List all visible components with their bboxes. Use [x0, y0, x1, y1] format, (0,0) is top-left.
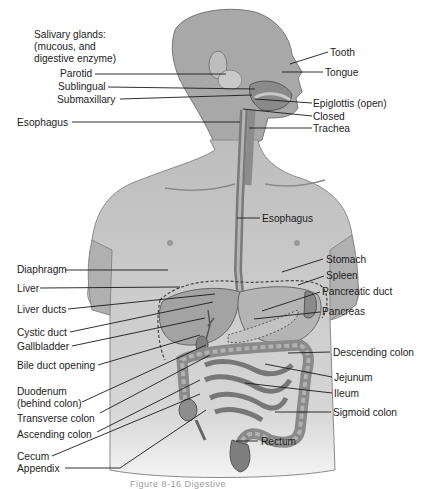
label-tooth: Tooth	[330, 47, 355, 59]
trachea-tube	[248, 110, 252, 185]
label-liver-ducts: Liver ducts	[17, 304, 66, 316]
figure-caption: Figure 8-16 Digestive	[130, 479, 226, 489]
label-ileum: Ileum	[334, 388, 359, 400]
label-sublingual: Sublingual	[58, 81, 106, 93]
label-sigmoid-colon: Sigmoid colon	[333, 407, 397, 419]
duodenum-sub: (behind colon)	[17, 398, 82, 410]
label-stomach: Stomach	[326, 254, 366, 266]
label-liver: Liver	[17, 283, 39, 295]
label-closed: Closed	[313, 111, 345, 123]
label-duodenum: Duodenum (behind colon)	[17, 386, 82, 410]
label-pancreatic-duct: Pancreatic duct	[322, 286, 392, 298]
label-submaxillary: Submaxillary	[57, 94, 115, 106]
label-trachea: Trachea	[313, 123, 350, 135]
label-gallbladder: Gallbladder	[17, 341, 69, 353]
label-esophagus-mid: Esophagus	[262, 213, 313, 225]
label-pancreas: Pancreas	[322, 306, 365, 318]
label-cystic-duct: Cystic duct	[17, 327, 67, 339]
label-spleen: Spleen	[326, 270, 358, 282]
title-line-3: digestive enzyme)	[34, 53, 116, 65]
label-esophagus-upper: Esophagus	[17, 117, 68, 129]
label-jejunum: Jejunum	[334, 372, 373, 384]
title-line-2: (mucous, and	[34, 41, 116, 53]
label-tongue: Tongue	[325, 67, 358, 79]
label-parotid: Parotid	[60, 68, 92, 80]
duodenum-main: Duodenum	[17, 386, 82, 398]
label-epiglottis: Epiglottis (open)	[313, 98, 387, 110]
salivary-glands-title: Salivary glands: (mucous, and digestive …	[34, 29, 116, 65]
label-bile-duct-opening: Bile duct opening	[17, 360, 95, 372]
label-appendix: Appendix	[17, 463, 59, 475]
label-transverse-colon: Transverse colon	[17, 413, 95, 425]
label-rectum: Rectum	[261, 436, 296, 448]
label-ascending-colon: Ascending colon	[17, 429, 92, 441]
label-descending-colon: Descending colon	[333, 347, 414, 359]
label-cecum: Cecum	[17, 451, 49, 463]
label-diaphragm: Diaphragm	[17, 264, 67, 276]
title-line-1: Salivary glands:	[34, 29, 116, 41]
